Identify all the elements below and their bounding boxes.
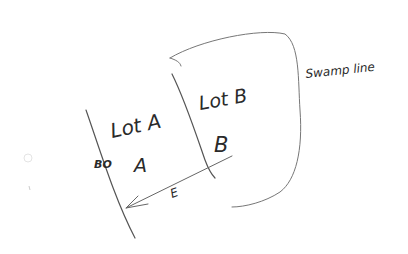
lot-b-letter: B [214,133,228,157]
lot-a-letter: A [132,154,147,176]
swamp-label: Swamp line [305,60,376,81]
faint-mark [24,154,32,162]
left-marker: BO [94,158,112,171]
lot-b-title: Lot B [197,84,249,114]
lot-a-title: Lot A [108,109,163,143]
swamp-curve-hook [170,58,181,66]
swamp-boundary-curve [170,32,301,207]
faint-tick [29,186,30,190]
arrow-label: E [168,185,180,201]
sketch-canvas: Lot A Lot B A B BO E Swamp line [0,0,408,254]
diagram-svg: Lot A Lot B A B BO E Swamp line [0,0,408,254]
